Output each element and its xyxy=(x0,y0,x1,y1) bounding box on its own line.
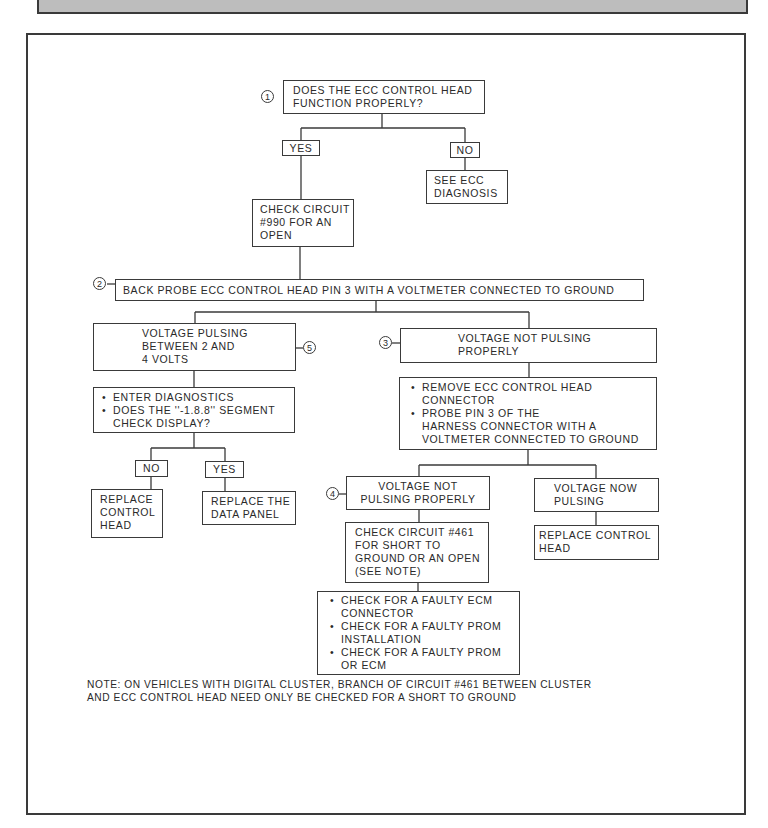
bullet-item: DOES THE ''-1.8.8'' SEGMENT xyxy=(99,404,288,417)
text-line: REPLACE CONTROL xyxy=(539,529,652,542)
text-line: CHECK CIRCUIT #461 xyxy=(355,526,482,539)
text-line: GROUND OR AN OPEN xyxy=(355,552,482,565)
text-line: BETWEEN 2 AND xyxy=(142,340,289,353)
text-line: OPEN xyxy=(260,229,347,242)
voltage-not-pulsing-box-4: VOLTAGE NOT PULSING PROPERLY xyxy=(346,476,490,510)
replace-data-panel-box: REPLACE THE DATA PANEL xyxy=(202,491,296,525)
text-line: DIAGNOSIS xyxy=(434,187,501,200)
replace-control-head-left-box: REPLACE CONTROL HEAD xyxy=(91,489,163,538)
text-line: CONNECTOR xyxy=(327,607,513,620)
text-line: PROPERLY xyxy=(458,345,650,358)
bullet-item: ENTER DIAGNOSTICS xyxy=(99,391,288,404)
note-line: NOTE: ON VEHICLES WITH DIGITAL CLUSTER, … xyxy=(87,679,592,692)
text-line: CONTROL xyxy=(100,506,156,519)
enter-diagnostics-box: ENTER DIAGNOSTICS DOES THE ''-1.8.8'' SE… xyxy=(93,387,295,433)
text-line: SEE ECC xyxy=(434,174,501,187)
back-probe-step-box: BACK PROBE ECC CONTROL HEAD PIN 3 WITH A… xyxy=(115,279,644,301)
text-line: CONNECTOR xyxy=(408,394,650,407)
step-number-5: 5 xyxy=(303,341,316,354)
bullet-item: REMOVE ECC CONTROL HEAD xyxy=(408,381,650,394)
bullet-item: CHECK FOR A FAULTY ECM xyxy=(327,594,513,607)
diag-answer-no: NO xyxy=(135,460,168,477)
faulty-component-checks-box: CHECK FOR A FAULTY ECM CONNECTOR CHECK F… xyxy=(317,591,520,675)
bullet-item: PROBE PIN 3 OF THE xyxy=(408,407,650,420)
text-line: VOLTMETER CONNECTED TO GROUND xyxy=(408,433,650,446)
text-line: OR ECM xyxy=(327,659,513,672)
voltage-now-pulsing-box: VOLTAGE NOW PULSING xyxy=(534,478,659,512)
check-circuit-461-box: CHECK CIRCUIT #461 FOR SHORT TO GROUND O… xyxy=(345,522,489,583)
see-ecc-diagnosis-box: SEE ECC DIAGNOSIS xyxy=(426,170,508,204)
step-number-1: 1 xyxy=(261,90,274,103)
text-line: VOLTAGE NOT PULSING xyxy=(458,332,650,345)
text-line: CHECK DISPLAY? xyxy=(99,417,288,430)
question-control-head-function: DOES THE ECC CONTROL HEAD FUNCTION PROPE… xyxy=(283,80,485,114)
footnote: NOTE: ON VEHICLES WITH DIGITAL CLUSTER, … xyxy=(87,679,592,704)
answer-no: NO xyxy=(450,142,480,158)
diag-answer-yes: YES xyxy=(205,461,244,478)
step-number-2: 2 xyxy=(93,277,106,290)
text-line: (SEE NOTE) xyxy=(355,565,482,578)
text-line: HARNESS CONNECTOR WITH A xyxy=(408,420,650,433)
text-line: VOLTAGE NOW xyxy=(554,482,652,495)
voltage-not-pulsing-box-3: VOLTAGE NOT PULSING PROPERLY xyxy=(400,328,657,363)
bullet-item: CHECK FOR A FAULTY PROM xyxy=(327,620,513,633)
step-number-3: 3 xyxy=(379,336,392,349)
remove-ecc-connector-box: REMOVE ECC CONTROL HEAD CONNECTOR PROBE … xyxy=(399,377,657,450)
voltage-pulsing-box: VOLTAGE PULSING BETWEEN 2 AND 4 VOLTS xyxy=(93,323,296,371)
note-line: AND ECC CONTROL HEAD NEED ONLY BE CHECKE… xyxy=(87,692,592,705)
text-line: REPLACE THE xyxy=(211,495,289,508)
text-line: INSTALLATION xyxy=(327,633,513,646)
text-line: VOLTAGE PULSING xyxy=(142,327,289,340)
replace-control-head-right-box: REPLACE CONTROL HEAD xyxy=(534,525,659,560)
text-line: PULSING PROPERLY xyxy=(349,493,487,506)
answer-yes: YES xyxy=(282,140,320,156)
bullet-item: CHECK FOR A FAULTY PROM xyxy=(327,646,513,659)
text-line: PULSING xyxy=(554,495,652,508)
text-line: 4 VOLTS xyxy=(142,353,289,366)
text-line: HEAD xyxy=(100,519,156,532)
text-line: #990 FOR AN xyxy=(260,216,347,229)
text-line: VOLTAGE NOT xyxy=(349,480,487,493)
text-line: DATA PANEL xyxy=(211,508,289,521)
check-circuit-990-box: CHECK CIRCUIT #990 FOR AN OPEN xyxy=(252,199,354,247)
text-line: HEAD xyxy=(539,542,652,555)
step-number-4: 4 xyxy=(326,487,339,500)
text-line: REPLACE xyxy=(100,493,156,506)
text-line: FOR SHORT TO xyxy=(355,539,482,552)
text-line: FUNCTION PROPERLY? xyxy=(293,97,478,110)
text-line: CHECK CIRCUIT xyxy=(260,203,347,216)
text-line: DOES THE ECC CONTROL HEAD xyxy=(293,84,478,97)
